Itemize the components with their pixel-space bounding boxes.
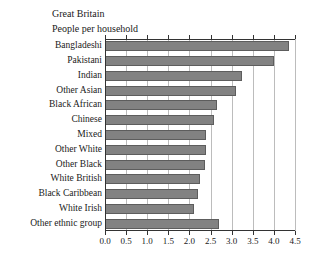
category-label: Chinese — [2, 114, 105, 125]
tick-mark-top — [105, 35, 106, 39]
tick-mark-top — [126, 35, 127, 39]
bar — [105, 71, 242, 81]
chart-subtitle: People per household — [52, 21, 302, 36]
gridline — [295, 39, 296, 231]
category-label: Pakistani — [2, 55, 105, 66]
tick-mark-top — [211, 35, 212, 39]
tick-mark-top — [253, 35, 254, 39]
tick-mark-bottom — [295, 231, 296, 235]
bar — [105, 130, 206, 140]
tick-mark-bottom — [147, 231, 148, 235]
bar — [105, 174, 200, 184]
bar-series — [105, 39, 295, 231]
category-label: Other ethnic group — [2, 218, 105, 229]
bar — [105, 145, 206, 155]
category-label: White Irish — [2, 203, 105, 214]
bar — [105, 56, 274, 66]
tick-mark-top — [147, 35, 148, 39]
bar-row — [105, 41, 295, 51]
tick-mark-top — [189, 35, 190, 39]
category-label: Other Asian — [2, 85, 105, 96]
tick-mark-bottom — [232, 231, 233, 235]
tick-mark-bottom — [126, 231, 127, 235]
tick-mark-top — [168, 35, 169, 39]
category-label: Black Caribbean — [2, 188, 105, 199]
tick-mark-bottom — [211, 231, 212, 235]
axis-left-line — [105, 39, 106, 231]
category-label: Mixed — [2, 129, 105, 140]
bar — [105, 160, 205, 170]
bar-row — [105, 86, 295, 96]
category-label: Other Black — [2, 159, 105, 170]
tick-mark-top — [232, 35, 233, 39]
chart-figure: Great Britain People per household Bangl… — [0, 0, 315, 269]
axis-top-line — [105, 39, 295, 40]
bar — [105, 204, 194, 214]
tick-mark-bottom — [168, 231, 169, 235]
bar-row — [105, 145, 295, 155]
bar-row — [105, 219, 295, 229]
bar — [105, 41, 289, 51]
tick-mark-top — [295, 35, 296, 39]
tick-mark-bottom — [274, 231, 275, 235]
bar-row — [105, 174, 295, 184]
bar — [105, 100, 217, 110]
bar — [105, 219, 219, 229]
chart-title: Great Britain — [52, 6, 302, 21]
tick-mark-bottom — [253, 231, 254, 235]
category-label: White British — [2, 173, 105, 184]
category-label: Indian — [2, 70, 105, 81]
bar-row — [105, 100, 295, 110]
bar-row — [105, 130, 295, 140]
bar-row — [105, 189, 295, 199]
bar-row — [105, 56, 295, 66]
category-label: Bangladeshi — [2, 40, 105, 51]
bar-row — [105, 115, 295, 125]
plot-area: 0.00.51.01.52.02.53.03.54.04.5 — [105, 39, 295, 231]
axis-bottom-line — [105, 230, 295, 231]
x-axis-tick-label: 4.5 — [282, 236, 308, 247]
bar — [105, 115, 214, 125]
tick-mark-bottom — [105, 231, 106, 235]
bar-row — [105, 71, 295, 81]
bar — [105, 189, 198, 199]
chart-title-block: Great Britain People per household — [52, 6, 302, 36]
tick-mark-top — [274, 35, 275, 39]
category-axis-labels: BangladeshiPakistaniIndianOther AsianBla… — [0, 39, 105, 231]
bar-row — [105, 204, 295, 214]
bar-row — [105, 160, 295, 170]
bar — [105, 86, 236, 96]
category-label: Other White — [2, 144, 105, 155]
category-label: Black African — [2, 99, 105, 110]
tick-mark-bottom — [189, 231, 190, 235]
